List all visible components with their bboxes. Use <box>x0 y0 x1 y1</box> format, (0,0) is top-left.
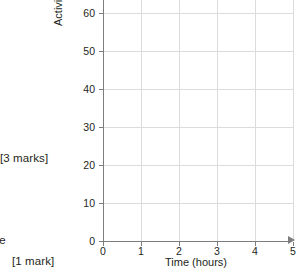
y-tick-10 <box>99 203 103 204</box>
x-tick-label-5: 5 <box>285 245 301 257</box>
gridline-horizontal-30 <box>103 127 293 128</box>
y-axis-line <box>103 0 104 242</box>
worksheet-page: [3 marks] te [1 mark] <box>0 0 305 273</box>
gridline-vertical-1 <box>141 0 142 241</box>
y-tick-50 <box>99 51 103 52</box>
gridline-horizontal-40 <box>103 89 293 90</box>
y-tick-30 <box>99 127 103 128</box>
gridline-vertical-2 <box>179 0 180 241</box>
gridline-horizontal-60 <box>103 13 293 14</box>
y-tick-label-0: 0 <box>73 235 95 247</box>
x-tick-label-1: 1 <box>133 245 149 257</box>
x-tick-label-4: 4 <box>247 245 263 257</box>
y-tick-60 <box>99 13 103 14</box>
y-tick-label-30: 30 <box>73 121 95 133</box>
gridline-vertical-4 <box>255 0 256 241</box>
plot-area <box>103 0 293 241</box>
y-tick-label-40: 40 <box>73 83 95 95</box>
gridline-horizontal-10 <box>103 203 293 204</box>
y-tick-40 <box>99 89 103 90</box>
y-tick-label-20: 20 <box>73 159 95 171</box>
y-tick-label-10: 10 <box>73 197 95 209</box>
gridline-horizontal-50 <box>103 51 293 52</box>
x-tick-label-0: 0 <box>95 245 111 257</box>
gridline-vertical-5 <box>293 0 294 241</box>
gridline-horizontal-20 <box>103 165 293 166</box>
y-tick-20 <box>99 165 103 166</box>
gridline-vertical-3 <box>217 0 218 241</box>
x-axis-line <box>103 241 290 242</box>
y-axis-title: Activity (counts per minute) <box>52 0 64 26</box>
y-tick-label-50: 50 <box>73 45 95 57</box>
x-axis-title: Time (hours) <box>148 256 244 268</box>
activity-vs-time-blank-graph: 60 50 40 30 20 10 0 0 1 2 3 4 5 Time (ho… <box>0 0 305 273</box>
y-tick-label-60: 60 <box>73 7 95 19</box>
